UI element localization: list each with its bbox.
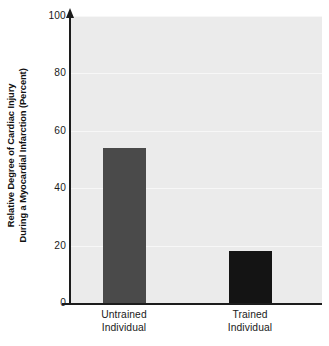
x-axis-category-label-line: Trained	[232, 309, 267, 320]
y-axis-title-line1: Relative Degree of Cardiac Injury	[5, 83, 16, 227]
y-axis-tick-label: 80	[36, 68, 66, 78]
bar	[229, 251, 272, 303]
y-axis-tick-label: 20	[36, 240, 66, 250]
gridline	[70, 73, 322, 74]
y-axis-title-text: Relative Degree of Cardiac Injury During…	[5, 68, 30, 242]
y-axis-title: Relative Degree of Cardiac Injury During…	[0, 0, 34, 310]
gridline	[70, 131, 322, 132]
bar-chart-figure: Relative Degree of Cardiac Injury During…	[0, 0, 329, 346]
x-axis-category-label-line: Individual	[61, 321, 187, 334]
y-axis-title-line2: During a Myocardial Infarction (Percent)	[17, 68, 29, 242]
x-axis-category-label-line: Individual	[187, 321, 313, 334]
gridline	[70, 16, 322, 17]
y-axis-tick-label: 40	[36, 183, 66, 193]
y-axis-line	[69, 16, 71, 304]
x-axis-category-label: TrainedIndividual	[187, 308, 313, 334]
y-axis-tick-label: 60	[36, 126, 66, 136]
x-axis-category-label: UntrainedIndividual	[61, 308, 187, 334]
x-axis-line	[62, 303, 322, 305]
x-axis-category-labels: UntrainedIndividualTrainedIndividual	[70, 308, 322, 344]
y-axis-tick-label: 100	[36, 11, 66, 21]
y-axis-tick-labels: 020406080100	[34, 0, 66, 346]
y-axis-arrow-icon	[66, 8, 74, 18]
bar	[103, 148, 146, 303]
plot-area	[70, 16, 322, 303]
x-axis-category-label-line: Untrained	[101, 309, 147, 320]
